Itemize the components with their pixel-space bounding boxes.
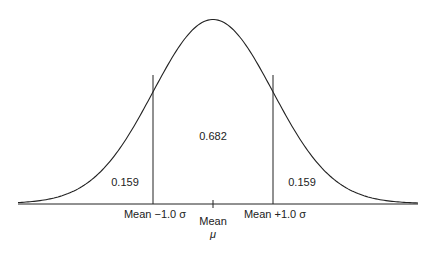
- center-area-label: 0.682: [199, 130, 227, 142]
- plus-sigma-label: Mean +1.0 σ: [244, 208, 306, 220]
- mean-label: Mean: [199, 215, 227, 227]
- minus-sigma-label: Mean −1.0 σ: [124, 208, 186, 220]
- right-area-label: 0.159: [288, 176, 316, 188]
- mu-label: μ: [210, 228, 216, 240]
- left-area-label: 0.159: [111, 176, 139, 188]
- bell-curve: [18, 20, 418, 203]
